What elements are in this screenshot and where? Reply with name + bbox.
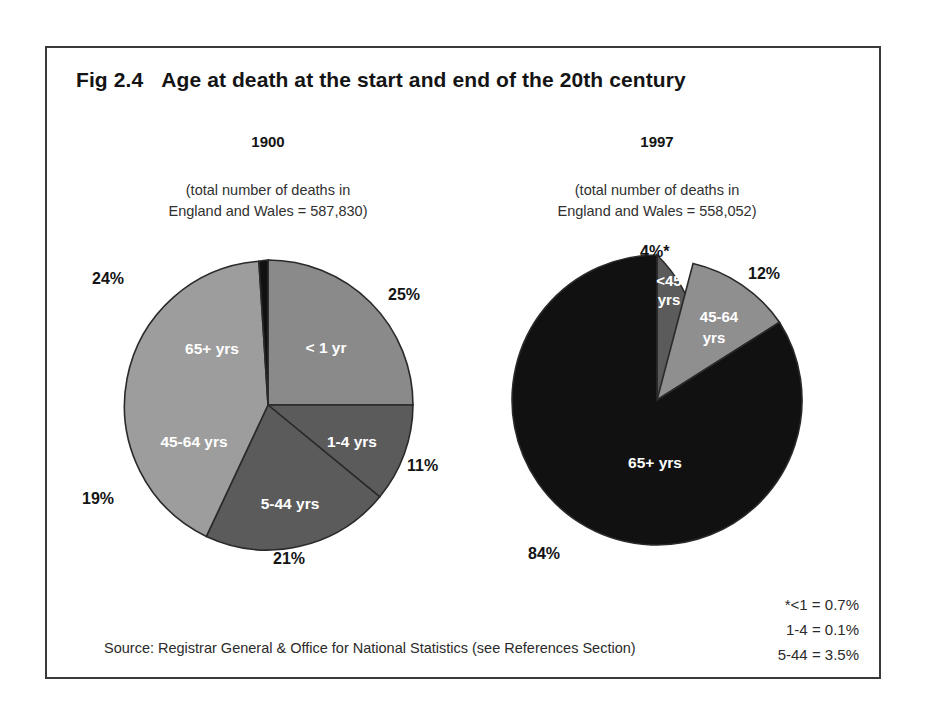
pie-1900-svg: < 1 yr 1-4 yrs 5-44 yrs 45-64 yrs 65+ yr… <box>118 255 418 555</box>
figure-number: Fig 2.4 <box>76 68 143 91</box>
panel-subtitle-1900: (total number of deaths in England and W… <box>128 180 408 222</box>
pct-label-1900-5-44yrs: 21% <box>273 550 305 568</box>
pie-1997-label-under-45yrs-line2: yrs <box>658 291 681 308</box>
footnote-line-1-4: 1-4 = 0.1% <box>778 617 859 642</box>
pct-label-1997-under-45yrs: 4%* <box>640 243 669 261</box>
pie-1997-label-45-64yrs-line2: yrs <box>703 329 726 346</box>
panel-subtitle-1900-line2: England and Wales = 587,830) <box>169 203 368 219</box>
figure-title-text: Age at death at the start and end of the… <box>161 68 686 91</box>
pie-1900-label-1-4yrs: 1-4 yrs <box>327 433 377 450</box>
pie-slice-under-1yr <box>268 260 413 405</box>
pie-chart-1997: <45 yrs 45-64 yrs 65+ yrs <box>507 250 807 554</box>
pct-label-1997-45-64yrs: 12% <box>748 265 780 283</box>
panel-subtitle-1997: (total number of deaths in England and W… <box>517 180 797 222</box>
panel-subtitle-1997-line1: (total number of deaths in <box>575 182 739 198</box>
pie-chart-1900: < 1 yr 1-4 yrs 5-44 yrs 45-64 yrs 65+ yr… <box>118 255 418 559</box>
pie-1900-label-5-44yrs: 5-44 yrs <box>261 495 320 512</box>
pie-1997-label-65plus: 65+ yrs <box>628 454 682 471</box>
footnote-block: *<1 = 0.7% 1-4 = 0.1% 5-44 = 3.5% <box>778 592 859 667</box>
figure-page: Fig 2.4Age at death at the start and end… <box>0 0 925 728</box>
pie-1997-label-under-45yrs-line1: <45 <box>656 272 681 289</box>
panel-subtitle-1997-line2: England and Wales = 558,052) <box>558 203 757 219</box>
pie-1900-label-65plus: 65+ yrs <box>185 340 239 357</box>
pct-label-1900-1-4yrs: 11% <box>407 457 438 475</box>
pct-label-1900-65plus: 24% <box>92 270 124 288</box>
pie-1997-svg: <45 yrs 45-64 yrs 65+ yrs <box>507 250 807 550</box>
footnote-line-under-1: *<1 = 0.7% <box>778 592 859 617</box>
pie-1997-label-45-64yrs-line1: 45-64 <box>700 308 739 325</box>
page-title: Fig 2.4Age at death at the start and end… <box>76 68 686 92</box>
panel-year-1900: 1900 <box>168 133 368 150</box>
pie-1900-label-45-64yrs: 45-64 yrs <box>160 433 227 450</box>
pct-label-1900-under-1yr: 25% <box>388 286 420 304</box>
source-note: Source: Registrar General & Office for N… <box>104 640 636 656</box>
pie-1900-label-under-1yr: < 1 yr <box>306 339 347 356</box>
pct-label-1997-65plus: 84% <box>528 545 560 563</box>
panel-subtitle-1900-line1: (total number of deaths in <box>186 182 350 198</box>
footnote-line-5-44: 5-44 = 3.5% <box>778 642 859 667</box>
panel-year-1997: 1997 <box>557 133 757 150</box>
pct-label-1900-45-64yrs: 19% <box>82 490 114 508</box>
